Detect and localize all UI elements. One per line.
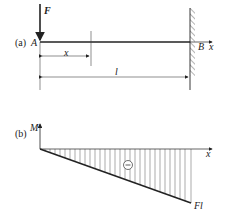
point-a-label: A (30, 37, 38, 48)
dim-l-label: l (115, 66, 118, 77)
point-b-label: B (198, 41, 204, 52)
moment-line (40, 149, 191, 203)
m-axis-label: M (29, 122, 39, 133)
fixed-wall-hatch (190, 8, 195, 76)
cantilever-figure: (a) A F B x x l (15, 4, 214, 90)
dim-x-label: x (63, 47, 69, 58)
force-label: F (43, 5, 51, 16)
fig-a-tag: (a) (15, 37, 26, 49)
x-axis-label: x (208, 41, 214, 52)
beam-diagram: (a) A F B x x l (b) (0, 0, 231, 219)
fl-label: Fl (193, 200, 203, 211)
x-axis-b-label: x (205, 148, 211, 159)
moment-diagram: (b) M x Fl (15, 122, 212, 211)
fig-b-tag: (b) (15, 128, 27, 140)
